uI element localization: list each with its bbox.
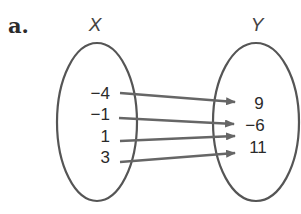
mapping-diagram: a. X −4 −1 1 3 Y 9 −6 11	[0, 0, 301, 214]
range-value: −6	[245, 116, 264, 135]
arrow-icon	[120, 93, 235, 102]
domain-set-label: X	[88, 14, 103, 35]
range-value: 11	[249, 138, 267, 157]
domain-value: −4	[91, 84, 110, 103]
range-value: 9	[254, 94, 263, 113]
domain-value: −1	[91, 105, 110, 124]
range-set-label: Y	[251, 14, 265, 35]
domain-value: 1	[101, 127, 110, 146]
part-label: a.	[8, 13, 29, 38]
domain-value: 3	[101, 148, 110, 167]
